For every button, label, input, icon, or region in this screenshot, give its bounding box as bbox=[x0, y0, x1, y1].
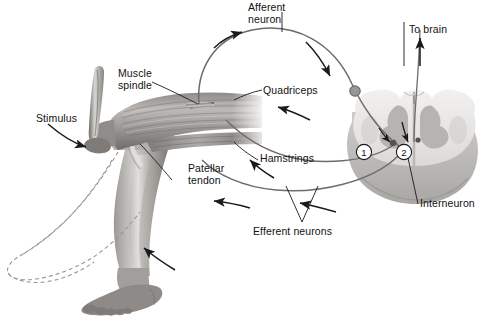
leg-illustration bbox=[81, 88, 268, 316]
step-marker-2-text: 2 bbox=[401, 147, 406, 158]
label-to-brain: To brain bbox=[409, 24, 447, 36]
arrow-efferent-to-quadriceps bbox=[278, 107, 310, 120]
arrow-efferent-lower bbox=[214, 201, 250, 208]
label-efferent-neurons: Efferent neurons bbox=[253, 226, 332, 238]
label-patellar-tendon: Patellar tendon bbox=[188, 163, 224, 186]
label-muscle-spindle: Muscle spindle bbox=[118, 68, 152, 91]
dorsal-root-ganglion bbox=[350, 86, 360, 96]
label-interneuron: Interneuron bbox=[420, 198, 475, 210]
arrow-afferent-down bbox=[306, 42, 330, 76]
arrow-stimulus bbox=[48, 124, 86, 147]
reflex-arc-illustration: 1 2 bbox=[0, 0, 484, 320]
label-stimulus: Stimulus bbox=[36, 113, 77, 125]
diagram-canvas: 1 2 Stimulus Muscle spindle Patellar ten… bbox=[0, 0, 484, 320]
label-hamstrings: Hamstrings bbox=[260, 153, 314, 165]
step-marker-1-text: 1 bbox=[361, 147, 366, 158]
arrow-efferent-to-hamstrings bbox=[300, 203, 336, 212]
label-quadriceps: Quadriceps bbox=[263, 85, 318, 97]
label-afferent-neuron: Afferent neuron bbox=[248, 2, 285, 25]
muscle-spindle-detail bbox=[186, 101, 214, 108]
